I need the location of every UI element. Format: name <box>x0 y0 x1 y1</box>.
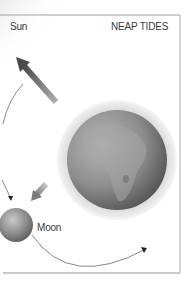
orbit-arrowhead-moon <box>8 196 13 201</box>
diagram-canvas <box>0 0 191 290</box>
moon <box>0 208 33 242</box>
earth <box>57 100 177 220</box>
neap-tides-diagram: Sun NEAP TIDES Moon <box>0 0 191 290</box>
sun-glow <box>0 0 83 95</box>
moon-arrow <box>31 184 46 201</box>
orbit-arrowhead <box>141 247 147 253</box>
sun-label: Sun <box>10 21 27 32</box>
diagram-title: NEAP TIDES <box>111 21 168 32</box>
moon-label: Moon <box>37 222 61 233</box>
